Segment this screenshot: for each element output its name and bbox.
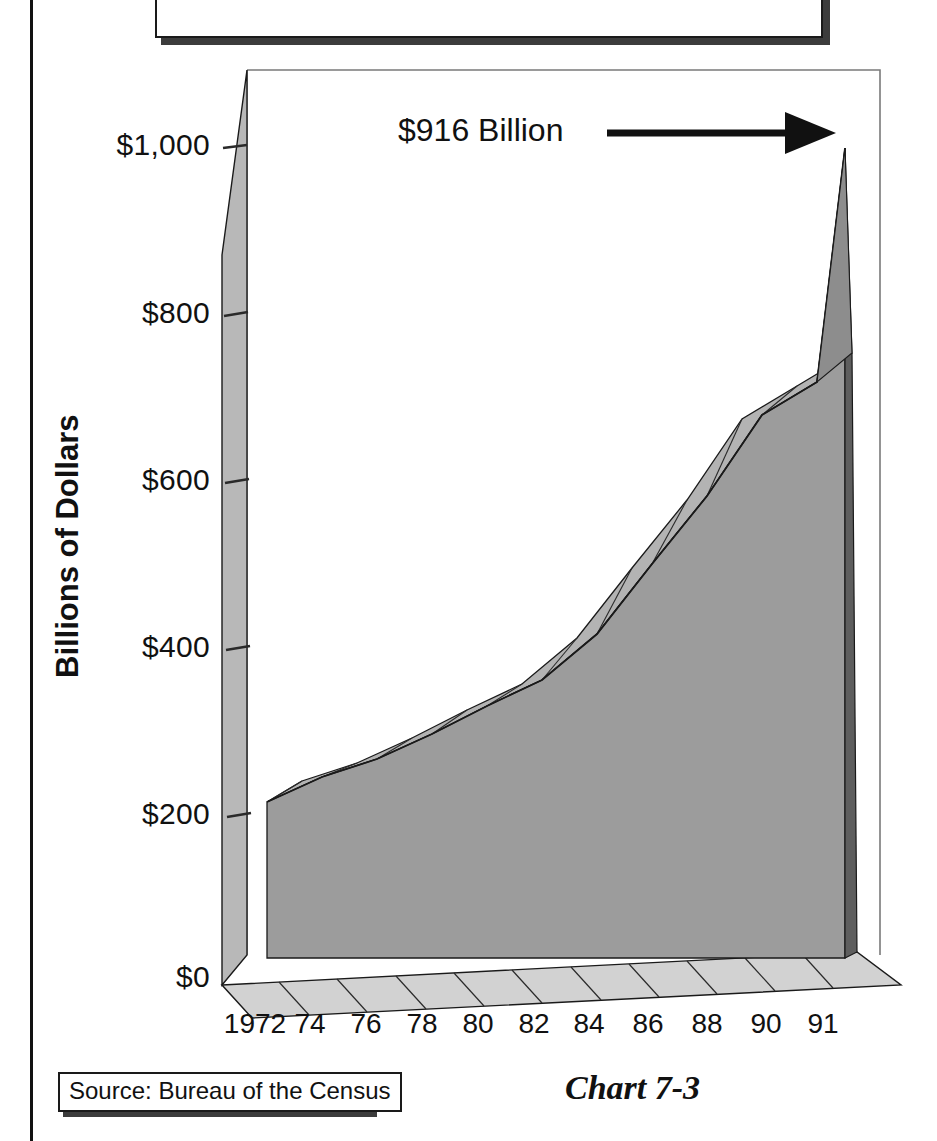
y-tick-label: $800 (60, 296, 210, 330)
y-tick-label: $1,000 (60, 128, 210, 162)
page-canvas: $1,000 $800 $600 $400 $200 $0 Billions o… (0, 0, 937, 1141)
chart-number-label: Chart 7-3 (565, 1069, 700, 1107)
value-annotation-label: $916 Billion (398, 112, 563, 149)
area-front-face (267, 148, 845, 958)
annotation-arrow-icon (607, 112, 836, 154)
source-note: Source: Bureau of the Census (58, 1072, 402, 1112)
y-axis-wall (222, 70, 251, 985)
y-axis-title: Billions of Dollars (50, 418, 86, 678)
y-tick-label: $0 (60, 960, 210, 994)
x-tick-label: 91 (788, 1008, 858, 1040)
y-tick-label: $200 (60, 797, 210, 831)
